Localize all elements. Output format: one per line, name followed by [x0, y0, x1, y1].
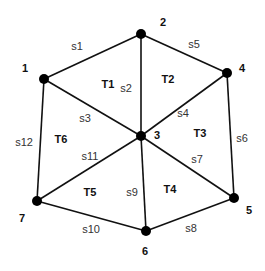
node-label-7: 7	[19, 212, 25, 224]
edge-label-s11: s11	[82, 150, 99, 162]
node-1	[39, 74, 49, 84]
node-7	[32, 196, 42, 206]
edge-label-s3: s3	[79, 112, 91, 124]
edge-label-s4: s4	[177, 107, 189, 119]
edge-s6	[227, 73, 234, 198]
triangle-label-T2: T2	[162, 73, 175, 85]
edge-s1	[44, 34, 141, 79]
node-label-3: 3	[154, 129, 160, 141]
edge-label-s10: s10	[82, 223, 100, 235]
edge-label-s7: s7	[191, 153, 203, 165]
edge-s5	[141, 34, 227, 73]
node-label-6: 6	[142, 245, 148, 257]
edge-s12	[37, 79, 44, 201]
triangle-label-T1: T1	[102, 78, 115, 90]
triangle-label-T3: T3	[194, 127, 207, 139]
node-3	[136, 131, 146, 141]
node-label-4: 4	[239, 62, 246, 74]
edge-s9	[141, 136, 146, 231]
edge-label-s9: s9	[126, 186, 138, 198]
edge-s7	[141, 136, 234, 198]
node-4	[222, 68, 232, 78]
node-6	[141, 226, 151, 236]
edge-label-s1: s1	[71, 40, 83, 52]
edge-label-s8: s8	[185, 222, 197, 234]
edge-label-s2: s2	[120, 82, 132, 94]
node-2	[136, 29, 146, 39]
triangle-label-T4: T4	[164, 183, 178, 195]
mesh-diagram: s1s2s3s4s5s6s7s8s9s10s11s121234567T1T2T3…	[0, 0, 265, 271]
node-label-1: 1	[22, 62, 28, 74]
node-label-2: 2	[160, 16, 166, 28]
labels-layer: s1s2s3s4s5s6s7s8s9s10s11s121234567T1T2T3…	[15, 16, 252, 257]
edge-label-s5: s5	[188, 38, 200, 50]
node-label-5: 5	[246, 204, 252, 216]
edge-label-s6: s6	[236, 132, 248, 144]
node-5	[229, 193, 239, 203]
triangle-label-T6: T6	[55, 133, 68, 145]
triangle-label-T5: T5	[84, 186, 97, 198]
edge-s4	[141, 73, 227, 136]
edge-label-s12: s12	[15, 136, 33, 148]
